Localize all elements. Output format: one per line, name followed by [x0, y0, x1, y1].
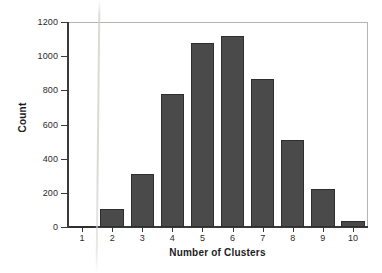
y-tick-mark: [61, 193, 67, 194]
bar-2: [100, 209, 123, 227]
x-tick-label: 8: [278, 233, 308, 243]
x-tick-mark: [82, 228, 83, 232]
x-tick-label: 1: [67, 233, 97, 243]
x-tick-label: 3: [127, 233, 157, 243]
bar-1: [70, 226, 93, 228]
x-tick-mark: [233, 228, 234, 232]
bar-8: [281, 140, 304, 227]
bar-3: [131, 174, 154, 227]
bar-9: [311, 189, 334, 227]
y-tick-mark: [61, 56, 67, 57]
x-tick-mark: [353, 228, 354, 232]
y-axis-line: [67, 22, 69, 228]
y-tick-mark: [61, 159, 67, 160]
x-tick-label: 6: [218, 233, 248, 243]
x-tick-label: 7: [248, 233, 278, 243]
x-tick-mark: [112, 228, 113, 232]
x-tick-mark: [142, 228, 143, 232]
y-tick-mark: [61, 125, 67, 126]
y-tick-label: 0: [18, 223, 58, 232]
x-tick-label: 2: [97, 233, 127, 243]
x-tick-mark: [263, 228, 264, 232]
x-tick-mark: [172, 228, 173, 232]
histogram-figure: 020040060080010001200 12345678910 Count …: [0, 0, 382, 273]
bar-5: [191, 43, 214, 227]
x-tick-mark: [323, 228, 324, 232]
y-tick-label: 200: [18, 189, 58, 198]
bar-7: [251, 79, 274, 227]
y-tick-mark: [61, 22, 67, 23]
x-tick-mark: [202, 228, 203, 232]
x-tick-label: 9: [308, 233, 338, 243]
x-tick-label: 10: [338, 233, 368, 243]
y-tick-mark: [61, 227, 67, 228]
y-tick-mark: [61, 90, 67, 91]
x-tick-mark: [293, 228, 294, 232]
bar-6: [221, 36, 244, 227]
y-axis-label: Count: [17, 78, 28, 158]
x-axis-label: Number of Clusters: [67, 247, 368, 258]
bar-4: [161, 94, 184, 227]
y-tick-label: 1000: [18, 52, 58, 61]
y-tick-label: 1200: [18, 18, 58, 27]
x-tick-label: 5: [187, 233, 217, 243]
bar-10: [341, 221, 364, 227]
x-tick-label: 4: [157, 233, 187, 243]
